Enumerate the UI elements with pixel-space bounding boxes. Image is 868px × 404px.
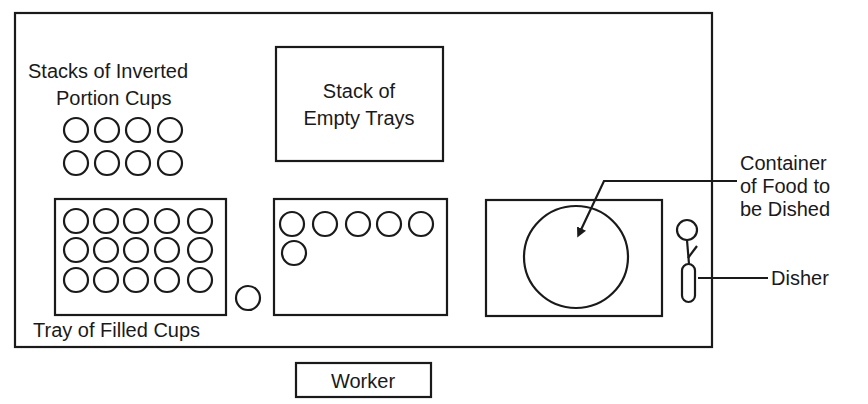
disher-handle (682, 264, 695, 302)
container-label-line3: be Dished (740, 198, 830, 220)
inverted-cups-group: Stacks of Inverted Portion Cups (28, 60, 188, 175)
filled-cup (64, 268, 88, 292)
filled-cup (155, 238, 179, 262)
disher-bowl (677, 220, 697, 240)
filled-cup (188, 209, 212, 233)
inverted-cup-stack (126, 118, 150, 142)
filled-tray-label: Tray of Filled Cups (33, 319, 200, 341)
filled-cup (124, 209, 148, 233)
empty-trays-stack: Stack of Empty Trays (276, 47, 443, 161)
filled-cup (155, 209, 179, 233)
disher-callout: Disher (698, 267, 829, 289)
filled-cup (64, 209, 88, 233)
inverted-cup-stack (64, 151, 88, 175)
empty-trays-label-line2: Empty Trays (303, 107, 414, 129)
working-cup (282, 241, 306, 265)
workstation-diagram: Stacks of Inverted Portion Cups Stack of… (0, 0, 868, 404)
working-cup (280, 212, 304, 236)
container-label-line2: of Food to (740, 175, 830, 197)
working-cup (377, 212, 401, 236)
filled-cup (94, 209, 118, 233)
food-container (524, 206, 628, 308)
disher (677, 220, 697, 302)
inverted-cup-stack (126, 151, 150, 175)
filled-cup (124, 268, 148, 292)
inverted-cup-stack (158, 151, 182, 175)
disher-label: Disher (771, 267, 829, 289)
worker-position: Worker (296, 363, 431, 397)
filled-cup (64, 238, 88, 262)
inverted-cup-stack (64, 118, 88, 142)
inverted-cup-stack (95, 151, 119, 175)
inverted-cup-stack (158, 118, 182, 142)
filled-cup (124, 238, 148, 262)
inverted-cups-label-line2: Portion Cups (56, 87, 172, 109)
filled-cup (188, 268, 212, 292)
filled-cup (94, 268, 118, 292)
working-cup (409, 212, 433, 236)
filled-cup (94, 238, 118, 262)
working-cup (346, 212, 370, 236)
empty-trays-label-line1: Stack of (323, 80, 396, 102)
working-tray (274, 199, 447, 315)
container-label-line1: Container (740, 152, 827, 174)
filled-cup (188, 238, 212, 262)
food-container-tray (486, 200, 662, 316)
working-cup (313, 212, 337, 236)
filled-cup (155, 268, 179, 292)
inverted-cups-label-line1: Stacks of Inverted (28, 60, 188, 82)
loose-cup (236, 286, 260, 310)
container-callout: Container of Food to be Dished (579, 152, 830, 234)
worker-label: Worker (331, 370, 395, 392)
inverted-cup-stack (95, 118, 119, 142)
filled-cups-tray: Tray of Filled Cups (33, 199, 226, 341)
